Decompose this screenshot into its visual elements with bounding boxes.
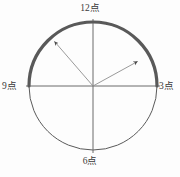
clock-diagram-svg [0, 0, 180, 177]
clock-label-6: 6点 [0, 157, 180, 167]
clock-label-9: 9点 [2, 82, 17, 92]
clock-face-diagram: 12点 3点 6点 9点 [0, 0, 180, 177]
clock-label-12: 12点 [0, 4, 180, 14]
arrow-upper-left [55, 42, 94, 87]
arrow-upper-right [93, 62, 138, 87]
clock-label-3: 3点 [159, 82, 174, 92]
